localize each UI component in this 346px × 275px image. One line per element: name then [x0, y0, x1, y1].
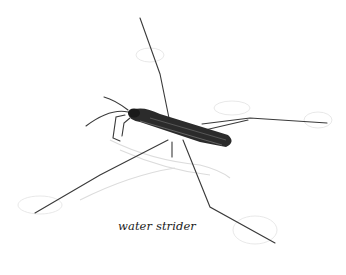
water-ripples [18, 48, 332, 244]
illustration: water strider [0, 0, 346, 275]
water-strider-drawing [0, 0, 346, 275]
shadow [80, 140, 230, 200]
caption: water strider [118, 219, 196, 233]
